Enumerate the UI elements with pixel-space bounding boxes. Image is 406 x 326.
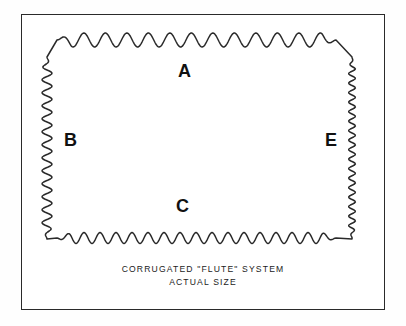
caption-line-subtitle: ACTUAL SIZE [21, 276, 385, 289]
edge-label-c: C [176, 197, 189, 215]
edge-label-e: E [325, 131, 337, 149]
figure-root: A B C E CORRUGATED "FLUTE" SYSTEM ACTUAL… [0, 0, 406, 326]
edge-label-b: B [64, 131, 77, 149]
caption-line-title: CORRUGATED "FLUTE" SYSTEM [21, 263, 385, 276]
caption-block: CORRUGATED "FLUTE" SYSTEM ACTUAL SIZE [21, 263, 385, 288]
edge-label-a: A [178, 62, 191, 80]
